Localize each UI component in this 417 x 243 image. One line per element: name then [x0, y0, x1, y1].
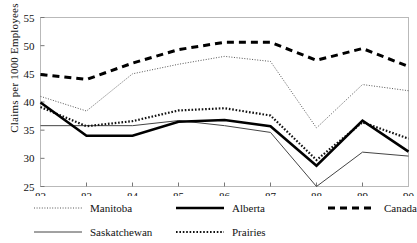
legend-label-canada: Canada [384, 202, 417, 214]
legend-item-manitoba[interactable]: Manitoba [0, 202, 168, 214]
plot-frame [41, 18, 409, 187]
legend-label-prairies: Prairies [232, 226, 266, 238]
legend-swatch-canada [328, 203, 376, 213]
legend-swatch-prairies [176, 227, 224, 237]
legend-label-alberta: Alberta [232, 202, 265, 214]
y-tick-label: 40 [24, 96, 36, 108]
line-chart-svg: 25303540455055828384858687888990 [0, 0, 417, 196]
y-tick-label: 50 [24, 40, 36, 52]
legend-label-manitoba: Manitoba [90, 202, 132, 214]
y-tick-label: 55 [24, 12, 36, 24]
legend-item-alberta[interactable]: Alberta [168, 202, 314, 214]
chart-legend: Manitoba Alberta Canada [0, 196, 417, 243]
legend-item-prairies[interactable]: Prairies [168, 226, 314, 238]
y-tick-label: 35 [24, 124, 36, 136]
series-line-manitoba [41, 56, 409, 128]
legend-swatch-alberta [176, 203, 224, 213]
legend-item-saskatchewan[interactable]: Saskatchewan [0, 226, 168, 238]
y-tick-label: 45 [24, 68, 36, 80]
y-axis-title: Claims per 1000 Employees [8, 0, 20, 158]
y-tick-label: 30 [24, 152, 36, 164]
series-line-canada [41, 42, 409, 79]
series-line-alberta [41, 103, 409, 166]
legend-swatch-manitoba [34, 203, 82, 213]
y-tick-label: 25 [24, 181, 36, 193]
series-line-prairies [41, 107, 409, 160]
plot-area: Claims per 1000 Employees 25303540455055… [0, 0, 417, 196]
chart-figure: Claims per 1000 Employees 25303540455055… [0, 0, 417, 243]
legend-item-canada[interactable]: Canada [314, 202, 417, 214]
legend-swatch-saskatchewan [34, 227, 82, 237]
legend-label-saskatchewan: Saskatchewan [90, 226, 152, 238]
